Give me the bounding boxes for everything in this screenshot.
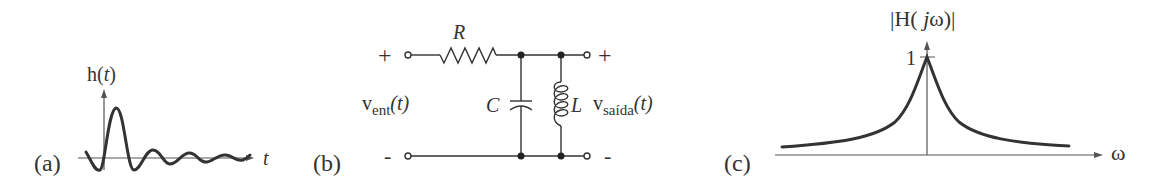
input-plus-terminal xyxy=(405,52,411,58)
node-bottom-l xyxy=(558,153,565,160)
panel-c-frequency-response: (c) |H( jω)| 1 ω xyxy=(700,0,1159,184)
y-axis-arrow-icon xyxy=(101,89,107,98)
inductor-coil xyxy=(554,82,568,126)
node-top-l xyxy=(558,52,565,59)
output-plus-terminal xyxy=(584,52,590,58)
node-top-c xyxy=(518,52,525,59)
resistor-zigzag xyxy=(440,48,496,63)
magnitude-axis-arrow-icon xyxy=(924,41,930,50)
panel-b-circuit: (b) + - + - R C L vent(t) vsaída(t) xyxy=(300,0,680,184)
h-t-curve xyxy=(86,108,250,170)
node-bottom-c xyxy=(518,153,525,160)
impulse-response-plot xyxy=(0,0,300,184)
rlc-circuit-schematic xyxy=(300,0,680,184)
output-minus-terminal xyxy=(584,153,590,159)
magnitude-curve xyxy=(782,57,1069,147)
panel-a-impulse-response: (a) h(t) t xyxy=(0,0,300,184)
magnitude-response-plot xyxy=(700,0,1159,184)
omega-axis-arrow-icon xyxy=(1094,152,1103,158)
input-minus-terminal xyxy=(405,153,411,159)
